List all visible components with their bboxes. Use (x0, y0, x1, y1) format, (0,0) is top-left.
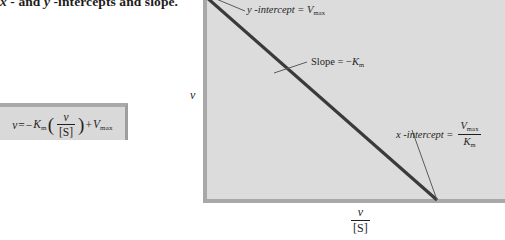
annotation-slope-label: Slope = − (311, 56, 352, 67)
equation-fraction-bar (57, 124, 75, 125)
x-axis-title: v [S] (349, 206, 372, 234)
equation-minus: − (26, 119, 33, 131)
annotation-x-intercept-den-subscript: m (470, 140, 475, 147)
heading-x-symbol: x (0, 0, 7, 9)
equation-km-base: K (33, 118, 41, 130)
data-line (205, 0, 437, 200)
equation-vmax-term: Vmax (93, 118, 113, 132)
annotation-y-intercept-value-subscript: max (313, 9, 325, 16)
equation-fraction-denominator: [S] (57, 126, 75, 138)
annotation-x-intercept-numerator: Vmax (458, 120, 480, 133)
equation-text: v = − Km ( v [S] ) + Vmax (12, 111, 113, 138)
annotation-x-intercept-label: x -intercept = (396, 129, 453, 140)
plot-lines-svg (203, 0, 505, 203)
annotation-x-intercept-fraction: Vmax Km (458, 120, 480, 148)
annotation-y-intercept-label: y -intercept = (247, 4, 307, 15)
annotation-x-intercept-fraction-bar (458, 134, 480, 135)
equation-km-term: Km (33, 118, 46, 132)
equation-lhs: v (12, 119, 17, 131)
heading-mid-text: - and (7, 0, 44, 9)
x-axis-title-fraction: v [S] (351, 206, 370, 234)
figure-heading: x - and y -intercepts and slope. (0, 0, 200, 10)
equation-fraction-numerator: v (62, 111, 71, 123)
equation-equals: = (18, 119, 25, 131)
figure-container: x - and y -intercepts and slope. v = − K… (0, 0, 505, 240)
annotation-slope-value-subscript: m (359, 61, 364, 68)
equation-callout-box: v = − Km ( v [S] ) + Vmax (0, 103, 128, 140)
x-axis-title-denominator: [S] (351, 222, 370, 235)
plot-area (203, 0, 505, 203)
equation-vmax-subscript: max (100, 123, 113, 131)
equation-plus: + (85, 119, 92, 131)
annotation-y-intercept: y -intercept = Vmax (247, 4, 325, 16)
equation-fraction: v [S] (57, 111, 75, 138)
annotation-x-intercept: x -intercept = Vmax Km (396, 120, 483, 148)
annotation-slope: Slope = −Km (311, 56, 364, 68)
equation-km-subscript: m (41, 123, 47, 131)
heading-suffix-text: -intercepts and slope. (50, 0, 178, 9)
annotation-x-intercept-denominator: Km (461, 136, 477, 149)
x-axis-title-numerator: v (356, 206, 365, 219)
y-axis-title: v (190, 88, 195, 103)
equation-vmax-base: V (93, 118, 100, 130)
annotation-slope-value-base: K (352, 56, 359, 67)
annotation-x-intercept-num-subscript: max (467, 125, 479, 132)
